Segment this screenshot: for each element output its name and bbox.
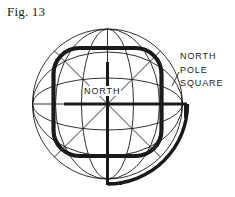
figure-caption: Fig. 13 [7, 4, 45, 20]
north-pole-square-callout: NORTH POLE SQUARE [180, 50, 223, 91]
spoke-ne [108, 51, 161, 104]
callout-line-1: NORTH [180, 50, 223, 64]
pole-center-label: NORTH [83, 86, 121, 96]
spoke-nw [55, 51, 108, 104]
callout-line-2: POLE [180, 64, 223, 78]
figure-container: Fig. 13 NORTH NORTH POLE SQUARE [0, 0, 235, 197]
north-pole-square-diagram [0, 0, 235, 197]
callout-line-3: SQUARE [180, 77, 223, 91]
